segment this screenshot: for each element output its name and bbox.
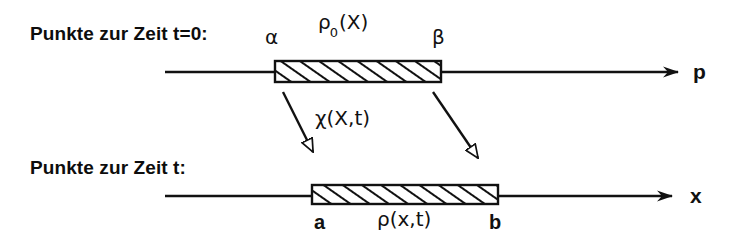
current-density-label: ρ(x,t) <box>377 209 431 229</box>
current-right-endpoint-label: b <box>489 212 501 232</box>
reference-left-endpoint-label: α <box>265 27 278 47</box>
mapping-arrow-left <box>283 92 313 152</box>
current-left-endpoint-label: a <box>314 212 325 232</box>
reference-segment-bar <box>275 61 441 82</box>
current-segment-bar <box>312 185 498 204</box>
reference-density-symbol: ρ <box>318 10 331 34</box>
mapping-label: χ(X,t) <box>315 108 370 128</box>
reference-density-subscript: 0 <box>330 25 338 40</box>
reference-density-label: ρ0(X) <box>318 12 368 36</box>
reference-axis-label: p <box>693 61 706 82</box>
mapping-arrow-right <box>433 92 478 158</box>
deformation-diagram: Punkte zur Zeit t=0: α ρ0(X) β p χ(X,t) … <box>0 0 739 243</box>
current-row-caption: Punkte zur Zeit t: <box>30 158 186 177</box>
current-axis-label: x <box>690 185 702 206</box>
reference-density-argument: (X) <box>339 10 368 34</box>
reference-row-caption: Punkte zur Zeit t=0: <box>30 24 208 43</box>
reference-right-endpoint-label: β <box>432 27 445 47</box>
